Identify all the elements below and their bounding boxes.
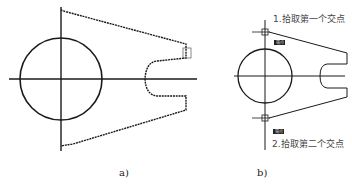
endpoint-tag-1: 端点 [274,40,285,45]
panel-b-drawing [234,20,347,150]
panel-a-drawing [9,7,197,151]
outline-dashed [61,10,186,146]
pick-box-icon [183,48,191,58]
caption-a: a) [119,167,129,178]
annotation-first-intersection: 1.拾取第一个交点 [273,12,345,25]
endpoint-tag-2: 端点 [273,129,284,134]
figure: a) b) 1.拾取第一个交点 2.拾取第二个交点 端点 端点 [0,0,352,186]
caption-b: b) [257,167,267,178]
annotation-second-intersection: 2.拾取第二个交点 [272,137,344,150]
cad-drawing [0,0,352,186]
